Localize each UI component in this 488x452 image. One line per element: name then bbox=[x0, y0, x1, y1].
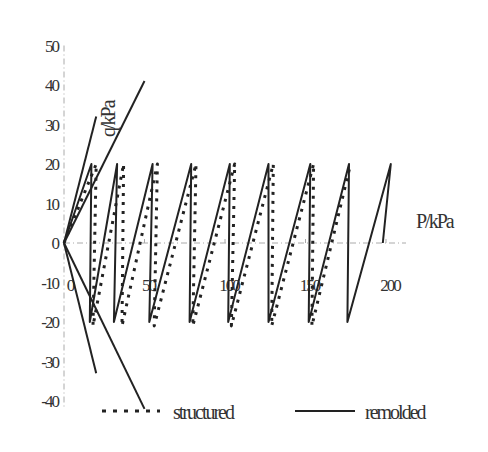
y-tick-label: 10 bbox=[45, 195, 60, 214]
y-tick-label: 40 bbox=[45, 76, 60, 95]
y-tick-label: -10 bbox=[41, 274, 59, 293]
x-tick-label: 200 bbox=[380, 276, 401, 295]
legend-label-remolded: remolded bbox=[365, 401, 427, 423]
y-tick-label: -40 bbox=[41, 392, 59, 411]
y-tick-label: 30 bbox=[45, 116, 60, 135]
y-tick-label: 50 bbox=[45, 37, 60, 56]
legend-label-structured: structured bbox=[173, 401, 235, 423]
y-tick-label: -30 bbox=[41, 353, 59, 372]
y-axis-ticks: 50403020100-10-20-30-40 bbox=[41, 37, 59, 412]
y-tick-label: 0 bbox=[52, 234, 60, 253]
y-axis-title: q/kPa bbox=[97, 99, 120, 137]
y-tick-label: -20 bbox=[41, 313, 59, 332]
y-tick-label: 20 bbox=[45, 155, 60, 174]
legend: structured remolded bbox=[102, 401, 427, 423]
series-structured bbox=[64, 164, 351, 326]
chart: 50403020100-10-20-30-40 050100150200 q/k… bbox=[0, 0, 488, 452]
x-axis-title: P/kPa bbox=[416, 210, 455, 232]
